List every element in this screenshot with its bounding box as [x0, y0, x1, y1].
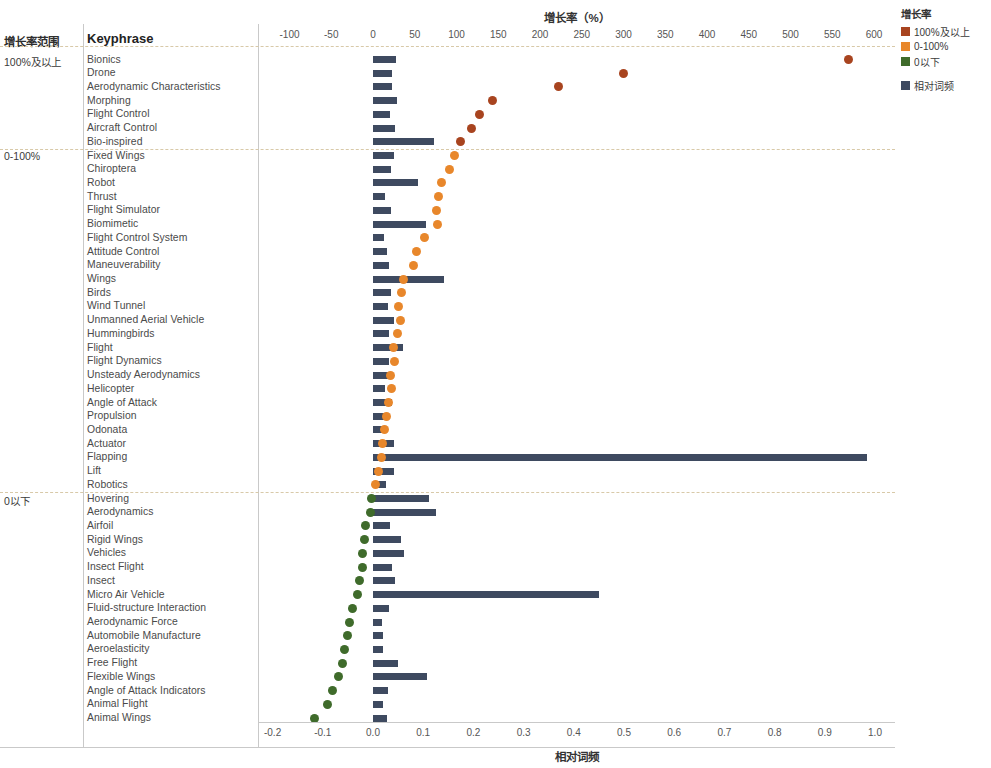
bottom-axis-tick: 1.0	[868, 727, 882, 738]
keyphrase-label: Insect Flight	[87, 561, 144, 572]
group-divider	[0, 492, 895, 493]
keyphrase-label: Unmanned Aerial Vehicle	[87, 314, 204, 325]
frequency-bar	[373, 138, 434, 145]
frequency-bar	[373, 619, 382, 626]
top-axis-tick: -50	[324, 29, 338, 40]
growth-rate-dot	[378, 439, 387, 448]
keyphrase-label: Wind Tunnel	[87, 300, 145, 311]
legend-label: 相对词频	[914, 78, 954, 93]
frequency-bar	[373, 97, 397, 104]
frequency-bar	[373, 509, 436, 516]
frequency-bar	[373, 248, 387, 255]
keyphrase-label: Flight Simulator	[87, 204, 160, 215]
top-axis-tick: 350	[657, 29, 674, 40]
legend-item[interactable]: 0以下	[901, 54, 991, 69]
keyphrase-label: Aerodynamics	[87, 506, 153, 517]
growth-rate-dot	[432, 206, 441, 215]
frequency-bar	[373, 303, 388, 310]
keyphrase-label: Lift	[87, 465, 101, 476]
keyphrase-label: Bio-inspired	[87, 136, 142, 147]
table-divider-left	[83, 24, 84, 748]
frequency-bar	[373, 262, 389, 269]
growth-rate-dot	[386, 371, 395, 380]
legend-swatch-icon	[901, 57, 910, 66]
keyphrase-label: Flight Control	[87, 108, 150, 119]
top-axis-tick: 150	[490, 29, 507, 40]
frequency-bar	[373, 715, 387, 722]
legend-item[interactable]: 0-100%	[901, 41, 991, 52]
growth-rate-dot	[334, 672, 343, 681]
top-axis-tick: 300	[615, 29, 632, 40]
bottom-axis-tick: 0.5	[617, 727, 631, 738]
growth-rate-dot	[399, 275, 408, 284]
growth-rate-dot	[384, 398, 393, 407]
growth-rate-dot	[554, 82, 563, 91]
keyphrase-label: Birds	[87, 287, 111, 298]
bottom-axis-tick: -0.2	[264, 727, 281, 738]
growth-rate-dot	[445, 165, 454, 174]
legend-label: 0以下	[914, 54, 940, 69]
keyphrase-label: Attitude Control	[87, 246, 159, 257]
group-label: 0-100%	[4, 150, 40, 162]
growth-rate-dot	[488, 96, 497, 105]
bottom-axis-tick: 0.3	[517, 727, 531, 738]
keyphrase-label: Odonata	[87, 424, 127, 435]
frequency-bar	[373, 125, 395, 132]
growth-rate-dot	[397, 288, 406, 297]
keyphrase-label: Rigid Wings	[87, 534, 143, 545]
top-axis-title: 增长率（%）	[544, 9, 609, 25]
growth-rate-dot	[394, 302, 403, 311]
frequency-bar	[373, 536, 401, 543]
top-axis-tick: 50	[409, 29, 420, 40]
frequency-bar	[373, 632, 383, 639]
keyphrase-label: Automobile Manufacture	[87, 630, 201, 641]
frequency-bar	[373, 564, 392, 571]
keyphrase-label: Helicopter	[87, 383, 134, 394]
growth-rate-dot	[437, 178, 446, 187]
legend-label: 0-100%	[914, 41, 948, 52]
keyphrase-label: Aeroelasticity	[87, 643, 150, 654]
keyphrase-label: Flight Control System	[87, 232, 187, 243]
top-axis-tick: 400	[699, 29, 716, 40]
chart-page: 增长率范围 Keyphrase 100%及以上0-100%0以下 Bionics…	[0, 0, 991, 768]
frequency-bar	[373, 358, 389, 365]
growth-rate-dot	[393, 329, 402, 338]
bottom-rule-bottom	[0, 747, 895, 748]
growth-rate-dot	[358, 549, 367, 558]
legend-swatch-icon	[901, 81, 910, 90]
group-label: 0以下	[4, 493, 30, 508]
plot-area	[259, 0, 895, 768]
keyphrase-label: Flexible Wings	[87, 671, 155, 682]
legend-item[interactable]: 100%及以上	[901, 24, 991, 39]
frequency-bar	[373, 577, 395, 584]
frequency-bar	[373, 111, 390, 118]
keyphrase-label: Free Flight	[87, 657, 137, 668]
growth-rate-dot	[387, 384, 396, 393]
keyphrase-label: Micro Air Vehicle	[87, 589, 165, 600]
legend-spacer	[901, 71, 991, 78]
growth-rate-dot	[467, 124, 476, 133]
top-axis-tick: 450	[740, 29, 757, 40]
growth-rate-dot	[374, 467, 383, 476]
group-label: 100%及以上	[4, 54, 61, 69]
keyphrase-label: Animal Flight	[87, 698, 148, 709]
bottom-axis-tick: 0.6	[667, 727, 681, 738]
keyphrase-label: Flight	[87, 342, 113, 353]
growth-rate-dot	[361, 521, 370, 530]
keyphrase-label: Aerodynamic Force	[87, 616, 178, 627]
growth-rate-dot	[353, 590, 362, 599]
frequency-bar	[373, 317, 394, 324]
bottom-axis-tick: 0.8	[768, 727, 782, 738]
keyphrase-label: Bionics	[87, 54, 121, 65]
frequency-bar	[373, 276, 444, 283]
legend-title: 增长率	[901, 6, 991, 21]
group-divider	[0, 149, 895, 150]
keyphrase-label: Angle of Attack Indicators	[87, 685, 206, 696]
keyphrase-label: Hovering	[87, 493, 129, 504]
growth-rate-dot	[434, 192, 443, 201]
legend-item[interactable]: 相对词频	[901, 78, 991, 93]
frequency-bar	[373, 330, 389, 337]
legend-items: 100%及以上0-100%0以下	[901, 24, 991, 69]
growth-rate-dot	[377, 453, 386, 462]
frequency-bar	[373, 152, 394, 159]
